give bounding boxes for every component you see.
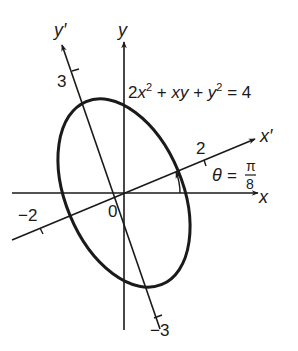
x-prime-tick-neg bbox=[40, 228, 43, 234]
theta-equals: = bbox=[227, 166, 237, 185]
x-prime-label: x′ bbox=[259, 126, 273, 146]
x-prime-tick-pos bbox=[204, 160, 206, 166]
tick-label-x-prime-neg: −2 bbox=[18, 206, 37, 225]
tick-label-y-prime-neg: −3 bbox=[150, 321, 169, 340]
y-prime-tick-pos bbox=[72, 69, 79, 71]
theta-denominator: 8 bbox=[246, 176, 254, 192]
theta-numerator: π bbox=[246, 158, 256, 174]
ellipse-equation: 2x2 + xy + y2 = 4 bbox=[128, 81, 251, 102]
x-prime-axis bbox=[12, 139, 255, 240]
y-label: y bbox=[116, 20, 128, 40]
rotated-ellipse-diagram: y′ y x′ x 0 3 −3 2 −2 2x2 + xy + y2 = 4 … bbox=[0, 0, 298, 351]
tick-label-x-prime-pos: 2 bbox=[196, 139, 205, 158]
origin-label: 0 bbox=[108, 202, 117, 221]
theta-symbol: θ bbox=[212, 165, 222, 185]
y-prime-label: y′ bbox=[52, 20, 67, 40]
x-label: x bbox=[258, 187, 269, 207]
tick-label-y-prime-pos: 3 bbox=[57, 72, 66, 91]
